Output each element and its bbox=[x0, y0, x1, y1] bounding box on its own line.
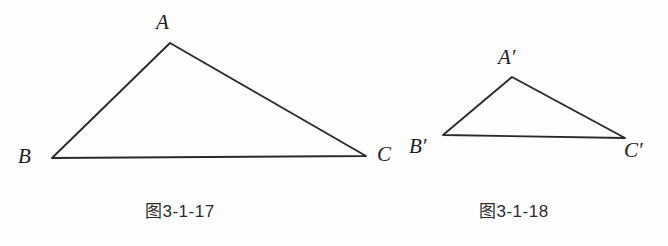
figures-canvas bbox=[0, 0, 668, 246]
figure-caption-right: 图3-1-18 bbox=[479, 203, 549, 220]
figure-caption-left: 图3-1-17 bbox=[145, 203, 215, 220]
figure-page: A B C A′ B′ C′ 图3-1-17 图3-1-18 bbox=[0, 0, 668, 246]
triangle-a-prime-b-prime-c-prime-outline bbox=[443, 77, 625, 138]
vertex-label-c: C bbox=[377, 144, 391, 165]
triangle-abc-outline bbox=[52, 43, 366, 158]
vertex-label-a-prime: A′ bbox=[498, 47, 515, 68]
vertex-label-b: B bbox=[18, 146, 31, 167]
vertex-label-a: A bbox=[156, 12, 169, 33]
vertex-label-b-prime: B′ bbox=[409, 136, 426, 157]
vertex-label-c-prime: C′ bbox=[624, 140, 643, 161]
